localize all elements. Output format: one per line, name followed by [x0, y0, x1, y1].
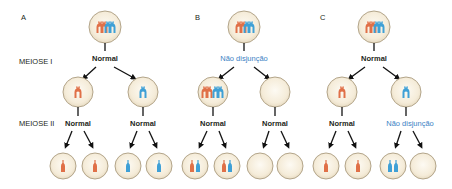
- daughter-cell-2: [391, 77, 421, 107]
- meiosis2-left-event-label: Normal: [329, 119, 355, 128]
- gamete: [214, 153, 240, 179]
- panel-c: Normal Normal Não disjunção: [313, 11, 436, 179]
- gamete: [380, 153, 406, 179]
- daughter-cell-1: [63, 77, 93, 107]
- daughter-cell-2: [128, 77, 158, 107]
- row-label-meiosis1: MEIOSE I: [19, 57, 52, 66]
- meiosis-nondisjunction-diagram: A B C MEIOSE I MEIOSE II Normal Normal N…: [0, 0, 452, 189]
- panel-b: Não disjunção Normal Normal: [182, 11, 303, 179]
- gamete-empty: [247, 153, 273, 179]
- gamete-empty: [277, 153, 303, 179]
- meiosis1-event-label: Não disjunção: [220, 54, 268, 63]
- meiosis2-right-event-label: Não disjunção: [386, 119, 434, 128]
- panel-label-a: A: [21, 13, 26, 22]
- panel-label-c: C: [320, 13, 326, 22]
- gamete-empty: [410, 153, 436, 179]
- panel-label-b: B: [195, 13, 200, 22]
- daughter-cell-1: [327, 77, 357, 107]
- meiosis2-left-event-label: Normal: [65, 119, 91, 128]
- meiosis1-event-label: Normal: [361, 54, 387, 63]
- meiosis1-event-label: Normal: [92, 54, 118, 63]
- daughter-cell-2-empty: [260, 77, 290, 107]
- row-label-meiosis2: MEIOSE II: [19, 119, 54, 128]
- gamete: [182, 153, 208, 179]
- meiosis2-left-event-label: Normal: [200, 119, 226, 128]
- panel-a: Normal Normal Normal: [50, 11, 172, 179]
- meiosis2-right-event-label: Normal: [262, 119, 288, 128]
- meiosis2-right-event-label: Normal: [130, 119, 156, 128]
